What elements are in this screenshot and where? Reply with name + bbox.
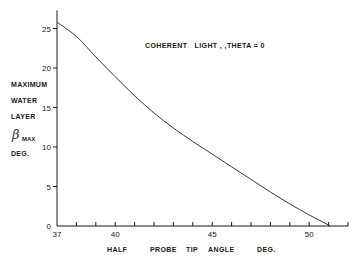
chart-annotation: COHERENT LIGHT , ,THETA = 0 — [145, 42, 265, 50]
x-label-tip: TIP — [186, 246, 198, 253]
y-axis-ticks: 0510152025 — [42, 25, 57, 232]
x-label-angle: ANGLE — [208, 246, 235, 253]
y-label-line-2: WATER — [11, 97, 37, 104]
x-tick-label: 45 — [208, 230, 217, 239]
y-tick-label: 0 — [47, 222, 52, 231]
y-label-line-1: MAXIMUM — [11, 81, 47, 88]
x-label-probe: PROBE — [150, 246, 177, 253]
y-label-line-3: LAYER — [11, 113, 36, 120]
y-tick-label: 25 — [42, 25, 51, 34]
chart: 0510152025 37404550 COHERENT LIGHT , ,TH… — [0, 0, 355, 271]
y-tick-label: 5 — [47, 183, 52, 192]
y-tick-label: 15 — [42, 104, 51, 113]
y-tick-label: 20 — [42, 64, 51, 73]
beta-subscript: MAX — [22, 136, 35, 142]
beta-symbol: β — [11, 127, 20, 142]
x-label-half: HALF — [107, 246, 128, 253]
x-label-units: DEG. — [257, 246, 276, 253]
data-curve — [57, 22, 331, 226]
chart-canvas: 0510152025 37404550 COHERENT LIGHT , ,TH… — [0, 0, 355, 271]
x-tick-label: 40 — [111, 230, 120, 239]
y-label-units: DEG. — [11, 150, 29, 157]
x-tick-label: 37 — [53, 230, 62, 239]
x-axis-ticks: 37404550 — [53, 222, 348, 239]
y-tick-label: 10 — [42, 143, 51, 152]
x-tick-label: 50 — [305, 230, 314, 239]
